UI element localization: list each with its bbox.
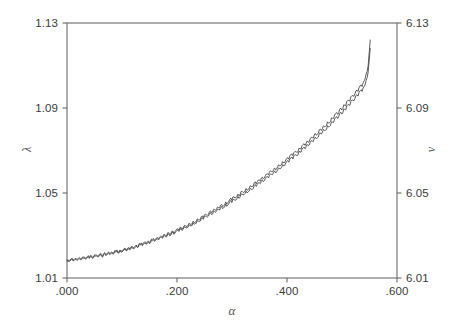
- y-axis-title-right: ν: [424, 140, 439, 160]
- plot-area: [0, 0, 459, 328]
- ytick-label-left-2: 1.05: [12, 187, 58, 199]
- xtick-label-3: .600: [372, 285, 422, 297]
- xtick-label-1: .200: [152, 285, 202, 297]
- x-axis-title: α: [207, 303, 257, 319]
- ytick-label-left-1: 1.09: [12, 102, 58, 114]
- ytick-label-left-0: 1.13: [12, 17, 58, 29]
- data-series-group: [67, 40, 370, 261]
- chart-figure: 1.13 1.09 1.05 1.01 6.13 6.09 6.05 6.01 …: [0, 0, 459, 328]
- ytick-label-right-2: 6.05: [406, 187, 454, 199]
- y-axis-title-left: λ: [20, 140, 35, 160]
- xtick-label-0: .000: [42, 285, 92, 297]
- xtick-label-2: .400: [262, 285, 312, 297]
- ytick-label-right-0: 6.13: [406, 17, 454, 29]
- axis-frame: [67, 23, 397, 278]
- ytick-label-right-3: 6.01: [406, 272, 454, 284]
- tick-marks: [63, 23, 402, 283]
- ytick-label-right-1: 6.09: [406, 102, 454, 114]
- ytick-label-left-3: 1.01: [12, 272, 58, 284]
